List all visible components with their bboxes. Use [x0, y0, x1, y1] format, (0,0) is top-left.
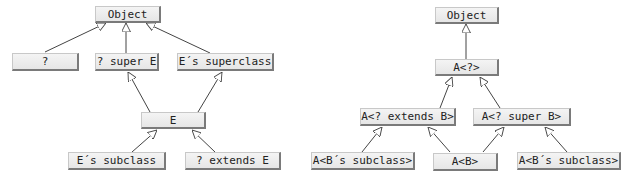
node-a-super-b: A<? super B> — [473, 108, 571, 126]
node-a-b-subclass-right: A<B´s subclass> — [517, 152, 621, 170]
node-object-right: Object — [435, 7, 499, 24]
node-a-b-subclass-left: A<B´s subclass> — [311, 152, 415, 170]
node-super-e: ? super E — [95, 53, 159, 71]
node-extends-e: ? extends E — [185, 152, 281, 170]
node-a-wildcard: A<?> — [435, 59, 499, 76]
node-e: E — [141, 112, 206, 129]
node-object-left: Object — [95, 6, 161, 23]
node-a-b: A<B> — [433, 153, 498, 171]
node-wildcard: ? — [12, 53, 79, 71]
node-e-superclass: E´s superclass — [177, 53, 274, 71]
node-e-subclass: E´s subclass — [68, 152, 166, 170]
node-a-extends-b: A<? extends B> — [360, 108, 456, 126]
